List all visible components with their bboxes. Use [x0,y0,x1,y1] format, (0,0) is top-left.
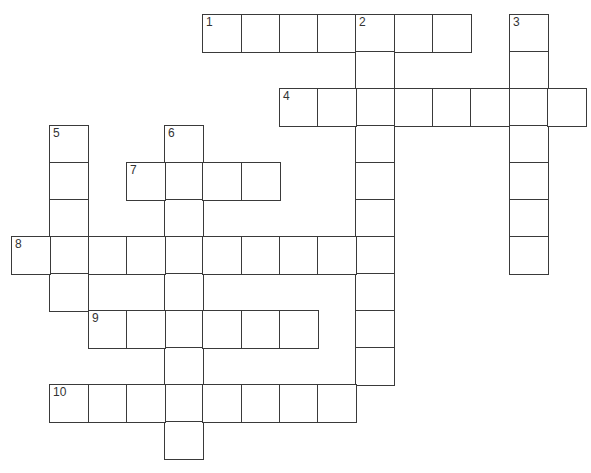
crossword-cell[interactable] [164,162,204,201]
crossword-cell[interactable] [164,310,204,349]
clue-number: 6 [168,127,175,140]
crossword-cell[interactable] [355,162,395,201]
crossword-cell[interactable] [355,199,395,238]
crossword-cell[interactable] [432,88,472,127]
crossword-cell[interactable] [509,162,549,201]
crossword-cell[interactable] [279,384,319,423]
crossword-cell[interactable] [49,236,89,275]
crossword-cell[interactable] [88,236,128,275]
crossword-cell[interactable] [355,310,395,349]
crossword-cell[interactable] [509,199,549,238]
crossword-cell[interactable]: 10 [49,384,89,423]
crossword-cell[interactable] [432,14,472,53]
crossword-cell[interactable] [279,236,319,275]
crossword-cell[interactable] [279,310,319,349]
crossword-cell[interactable] [470,88,510,127]
crossword-cell[interactable]: 9 [88,310,128,349]
crossword-cell[interactable] [317,384,357,423]
crossword-cell[interactable] [241,384,281,423]
clue-number: 1 [206,16,213,29]
crossword-cell[interactable]: 4 [279,88,319,127]
crossword-cell[interactable] [164,273,204,312]
crossword-cell[interactable] [49,199,89,238]
crossword-cell[interactable] [355,125,395,164]
crossword-cell[interactable]: 1 [202,14,242,53]
crossword-cell[interactable] [126,384,166,423]
crossword-cell[interactable] [241,310,281,349]
crossword-cell[interactable] [394,14,434,53]
crossword-cell[interactable] [49,273,89,312]
clue-number: 10 [53,386,66,399]
crossword-cell[interactable]: 8 [11,236,51,275]
crossword-cell[interactable] [317,88,357,127]
crossword-cell[interactable] [355,236,395,275]
crossword-cell[interactable] [279,14,319,53]
crossword-cell[interactable] [88,384,128,423]
clue-number: 9 [92,312,99,325]
crossword-cell[interactable] [509,125,549,164]
crossword-grid: 12345678910 [0,0,591,473]
crossword-cell[interactable] [126,236,166,275]
clue-number: 3 [513,16,520,29]
crossword-cell[interactable]: 6 [164,125,204,164]
crossword-cell[interactable] [202,384,242,423]
crossword-cell[interactable] [241,236,281,275]
crossword-cell[interactable] [394,88,434,127]
crossword-cell[interactable] [355,51,395,90]
clue-number: 5 [53,127,60,140]
crossword-cell[interactable] [509,236,549,275]
crossword-cell[interactable] [202,310,242,349]
crossword-cell[interactable] [164,199,204,238]
clue-number: 8 [15,238,22,251]
crossword-cell[interactable] [164,347,204,386]
crossword-cell[interactable]: 7 [126,162,166,201]
crossword-cell[interactable] [126,310,166,349]
crossword-cell[interactable] [355,273,395,312]
crossword-cell[interactable] [355,88,395,127]
crossword-cell[interactable]: 3 [509,14,549,53]
crossword-cell[interactable]: 5 [49,125,89,164]
crossword-cell[interactable] [202,236,242,275]
clue-number: 7 [130,164,137,177]
crossword-cell[interactable] [164,421,204,460]
crossword-cell[interactable] [317,236,357,275]
crossword-cell[interactable] [317,14,357,53]
crossword-cell[interactable] [241,14,281,53]
crossword-cell[interactable] [547,88,587,127]
crossword-cell[interactable] [509,88,549,127]
crossword-cell[interactable] [164,236,204,275]
crossword-cell[interactable] [202,162,242,201]
crossword-cell[interactable] [164,384,204,423]
crossword-cell[interactable]: 2 [355,14,395,53]
crossword-cell[interactable] [509,51,549,90]
crossword-cell[interactable] [49,162,89,201]
crossword-cell[interactable] [241,162,281,201]
crossword-cell[interactable] [355,347,395,386]
clue-number: 4 [283,90,290,103]
clue-number: 2 [359,16,366,29]
